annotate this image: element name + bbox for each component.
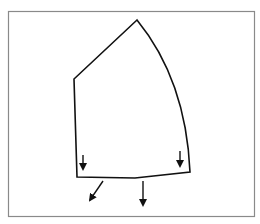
shape-outline: [74, 20, 190, 178]
diagram-canvas: [0, 0, 260, 224]
arrow-outer-diagonal-icon: [90, 181, 103, 200]
diagram-svg: [0, 0, 260, 224]
frame-border: [9, 12, 255, 217]
